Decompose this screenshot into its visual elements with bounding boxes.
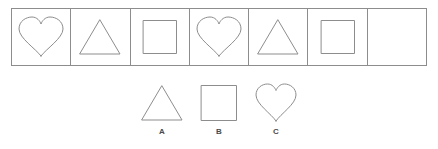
- sequence-cell-7-empty[interactable]: [368, 9, 426, 65]
- sequence-cell-2[interactable]: [71, 9, 130, 65]
- sequence-cell-3[interactable]: [131, 9, 190, 65]
- square-icon: [142, 19, 178, 55]
- sequence-cell-1[interactable]: [12, 9, 71, 65]
- sequence-cell-4[interactable]: [190, 9, 249, 65]
- square-icon: [320, 19, 356, 55]
- heart-icon: [194, 16, 244, 58]
- heart-icon: [252, 82, 300, 124]
- square-icon: [195, 82, 243, 124]
- triangle-icon: [78, 18, 122, 56]
- answer-option-c-label: C: [252, 127, 300, 137]
- answer-option-c[interactable]: C: [252, 82, 300, 140]
- pattern-sequence-puzzle: A B C: [0, 0, 438, 149]
- triangle-icon: [138, 82, 186, 124]
- answer-options: A B C: [138, 82, 303, 140]
- answer-option-b-label: B: [195, 127, 243, 137]
- sequence-cell-5[interactable]: [249, 9, 308, 65]
- answer-option-a-label: A: [138, 127, 186, 137]
- sequence-cell-6[interactable]: [308, 9, 367, 65]
- answer-option-b[interactable]: B: [195, 82, 243, 140]
- triangle-icon: [256, 18, 300, 56]
- clipped-caption: [0, 144, 438, 149]
- heart-icon: [16, 16, 66, 58]
- sequence-grid: [11, 8, 427, 66]
- answer-option-a[interactable]: A: [138, 82, 186, 140]
